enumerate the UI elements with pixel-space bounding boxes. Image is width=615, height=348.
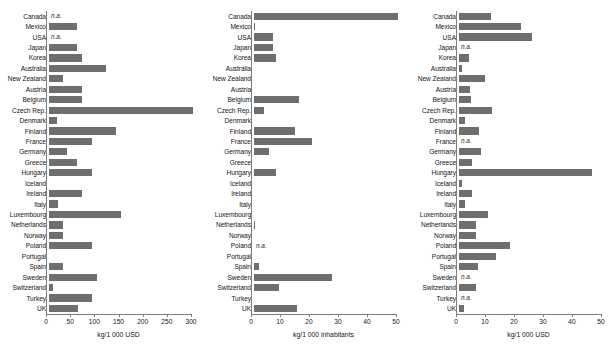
bar-row: Korea	[0, 53, 205, 63]
bar-row: Greece	[0, 157, 205, 167]
category-label: Korea	[410, 54, 459, 61]
x-axis-tick-label: 10	[276, 318, 283, 325]
bar	[49, 159, 77, 166]
bar-track: n.a.	[49, 32, 205, 42]
bar-track	[459, 126, 615, 136]
bar-row: Hungary	[205, 168, 410, 178]
bar	[254, 107, 264, 114]
bar	[254, 23, 255, 30]
x-axis-tick-label: 50	[392, 318, 399, 325]
category-label: Spain	[0, 263, 49, 270]
bar-row: Japan	[205, 42, 410, 52]
category-label: Turkey	[0, 295, 49, 302]
bar-row: Poland	[0, 241, 205, 251]
bar	[49, 127, 116, 134]
x-axis-tick-label: 0	[454, 318, 458, 325]
category-label: Belgium	[0, 96, 49, 103]
bar-row: Ireland	[0, 188, 205, 198]
bar-track	[459, 95, 615, 105]
bar-row: Iceland	[205, 178, 410, 188]
category-label: Norway	[410, 232, 459, 239]
category-label: Australia	[410, 65, 459, 72]
bar-rows-1: Canadan.a.MexicoUSAn.a.JapanKoreaAustral…	[0, 11, 205, 314]
bar	[459, 305, 464, 312]
category-label: Japan	[205, 44, 254, 51]
category-label: Norway	[205, 232, 254, 239]
bar-track	[459, 21, 615, 31]
category-label: Finland	[0, 128, 49, 135]
bar-track	[49, 230, 205, 240]
bar-row: Canadan.a.	[0, 11, 205, 21]
bar-track	[254, 303, 410, 313]
bar-track	[254, 272, 410, 282]
bar	[459, 86, 470, 93]
bar-row: New Zealand	[410, 74, 615, 84]
bar-row: Austria	[410, 84, 615, 94]
bar-track	[254, 95, 410, 105]
bar	[459, 221, 476, 228]
category-label: USA	[0, 34, 49, 41]
bar-row: Belgium	[410, 95, 615, 105]
bar-row: Finland	[410, 126, 615, 136]
category-label: USA	[205, 34, 254, 41]
category-label: Luxembourg	[0, 211, 49, 218]
bar-track: n.a.	[459, 136, 615, 146]
bar-row: Francen.a.	[410, 136, 615, 146]
bar-track	[254, 251, 410, 261]
bar-track	[459, 241, 615, 251]
bar-row: Mexico	[0, 21, 205, 31]
bar	[254, 263, 259, 270]
chart-panel-1: Canadan.a.MexicoUSAn.a.JapanKoreaAustral…	[0, 0, 205, 348]
bar	[254, 96, 299, 103]
category-label: Hungary	[410, 169, 459, 176]
category-label: Denmark	[205, 117, 254, 124]
x-axis-tick-label: 30	[334, 318, 341, 325]
x-axis-tick	[514, 314, 515, 317]
bar-row: Norway	[410, 230, 615, 240]
bar-row: Luxembourg	[0, 209, 205, 219]
x-axis-tick-label: 50	[66, 318, 73, 325]
bar	[459, 96, 471, 103]
x-axis-tick-label: 20	[510, 318, 517, 325]
bar	[49, 54, 82, 61]
bar-row: Australia	[205, 63, 410, 73]
bar-track	[459, 282, 615, 292]
x-axis-tick-label: 0	[249, 318, 253, 325]
bar-row: Portugal	[0, 251, 205, 261]
category-label: Canada	[0, 13, 49, 20]
bar	[459, 117, 465, 124]
category-label: Spain	[410, 263, 459, 270]
bar-row: Austria	[205, 84, 410, 94]
category-label: Canada	[410, 13, 459, 20]
category-label: Australia	[205, 65, 254, 72]
category-label: Austria	[0, 86, 49, 93]
bar-track: n.a.	[254, 241, 410, 251]
bar-rows-3: CanadaMexicoUSAJapann.a.KoreaAustraliaNe…	[410, 11, 615, 314]
category-label: Austria	[205, 86, 254, 93]
bar-row: Spain	[205, 262, 410, 272]
category-label: Iceland	[205, 180, 254, 187]
bar	[459, 200, 465, 207]
category-label: Korea	[0, 54, 49, 61]
plot-area-2: CanadaMexicoUSAJapanKoreaAustraliaNew Ze…	[205, 0, 410, 348]
bar	[49, 200, 58, 207]
bar	[459, 33, 532, 40]
bar-row: Netherlands	[0, 220, 205, 230]
bar-row: Czech Rep.	[205, 105, 410, 115]
x-axis-tick-label: 200	[137, 318, 148, 325]
bar	[254, 54, 276, 61]
bar-track	[459, 105, 615, 115]
category-label: Hungary	[0, 169, 49, 176]
bar-row: Canada	[205, 11, 410, 21]
x-axis-title: kg/1 000 USD	[46, 331, 191, 339]
bar	[49, 44, 77, 51]
bar-track	[459, 178, 615, 188]
bar-track	[459, 209, 615, 219]
bar-row: Norway	[205, 230, 410, 240]
bar-track	[49, 262, 205, 272]
bar-track	[49, 199, 205, 209]
bar	[459, 75, 485, 82]
bar-track	[49, 115, 205, 125]
not-available-label: n.a.	[256, 242, 267, 250]
bar-row: Italy	[205, 199, 410, 209]
